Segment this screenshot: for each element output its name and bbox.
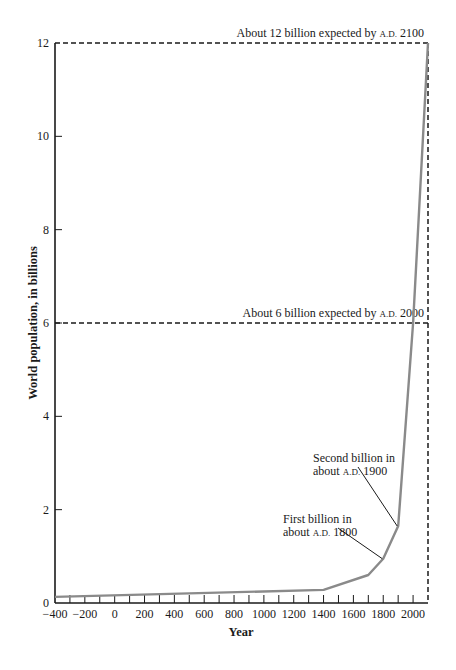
x-tick-label: 200 bbox=[136, 607, 154, 621]
reference-label: About 12 billion expected by A.D. 2100 bbox=[237, 26, 424, 40]
x-tick-label: −400 bbox=[43, 607, 68, 621]
annotations: Second billion inabout A.D. 1900First bi… bbox=[283, 451, 397, 559]
x-tick-label: 800 bbox=[225, 607, 243, 621]
x-tick-label: 2000 bbox=[401, 607, 425, 621]
x-tick-label: 1600 bbox=[341, 607, 365, 621]
reference-label-text: About 12 billion expected by bbox=[237, 26, 380, 40]
y-tick-label: 2 bbox=[43, 503, 49, 517]
x-tick-label: 1000 bbox=[252, 607, 276, 621]
y-tick-label: 4 bbox=[43, 409, 49, 423]
reference-lines: About 12 billion expected by A.D. 2100Ab… bbox=[55, 26, 428, 603]
annotation-line1: First billion in bbox=[283, 512, 352, 526]
era-label: A.D. bbox=[380, 309, 398, 319]
y-tick-label: 6 bbox=[43, 316, 49, 330]
y-axis-title: World population, in billions bbox=[26, 246, 40, 400]
annotation-line2: about A.D. 1800 bbox=[283, 525, 357, 539]
x-tick-label: −200 bbox=[72, 607, 97, 621]
x-axis-title: Year bbox=[229, 625, 254, 639]
x-tick-label: 0 bbox=[112, 607, 118, 621]
reference-label-text: About 6 billion expected by bbox=[243, 306, 380, 320]
reference-label: About 6 billion expected by A.D. 2000 bbox=[243, 306, 424, 320]
x-tick-label: 1400 bbox=[312, 607, 336, 621]
y-tick-label: 12 bbox=[37, 36, 49, 50]
x-tick-label: 1800 bbox=[371, 607, 395, 621]
population-chart: 024681012−400−20002004006008001000120014… bbox=[0, 0, 456, 670]
y-tick-label: 8 bbox=[43, 223, 49, 237]
annotation-line2: about A.D. 1900 bbox=[313, 464, 387, 478]
axes: 024681012−400−20002004006008001000120014… bbox=[37, 36, 428, 621]
x-tick-label: 1200 bbox=[282, 607, 306, 621]
y-tick-label: 10 bbox=[37, 129, 49, 143]
era-label: A.D. bbox=[380, 29, 398, 39]
annotation-line1: Second billion in bbox=[313, 451, 395, 465]
x-tick-label: 600 bbox=[195, 607, 213, 621]
year-label: 2000 bbox=[397, 306, 424, 320]
year-label: 2100 bbox=[397, 26, 424, 40]
x-tick-label: 400 bbox=[165, 607, 183, 621]
